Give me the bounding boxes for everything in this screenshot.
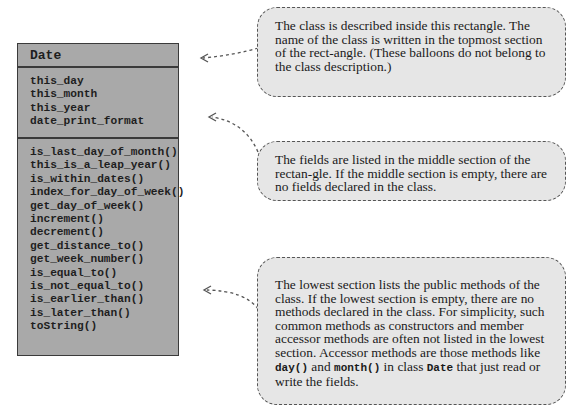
balloon-text: The lowest section lists the public meth… — [275, 277, 545, 360]
callout-arrow-fields — [212, 117, 258, 152]
balloon-class-name: The class is described inside this recta… — [257, 7, 566, 97]
balloon-text: and — [308, 359, 334, 374]
code-month: month() — [334, 362, 380, 374]
balloon-text: The fields are listed in the middle sect… — [275, 152, 547, 194]
balloon-text: The class is described inside this recta… — [275, 18, 545, 74]
callout-arrow-class-name — [203, 48, 258, 58]
balloon-methods: The lowest section lists the public meth… — [257, 257, 566, 405]
code-day: day() — [275, 362, 308, 374]
balloon-fields: The fields are listed in the middle sect… — [257, 141, 566, 201]
balloon-text: in class — [380, 359, 427, 374]
code-date: Date — [427, 362, 453, 374]
callout-arrow-methods — [207, 290, 258, 309]
